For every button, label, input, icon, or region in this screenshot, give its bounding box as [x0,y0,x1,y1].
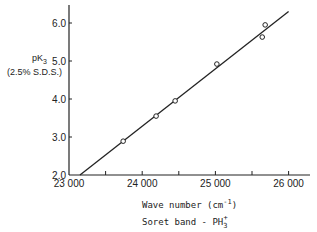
data-series [80,12,289,175]
fit-line [80,12,289,175]
data-point [121,139,126,144]
data-point [263,23,268,28]
y-tick-label: 4.0 [52,94,66,105]
x-tick-label: 24 000 [127,178,158,189]
x-ticks: 23 00024 00025 00026 000 [54,171,305,189]
y-tick-label: 5.0 [52,56,66,67]
x-axis-label: Wave number (cm-1) [142,198,237,210]
y-axis-sublabel: (2.5% S.D.S.) [7,67,62,77]
y-axis-label: pK3 [32,53,47,65]
data-point [215,62,220,67]
x-tick-label: 23 000 [54,178,85,189]
x-axis-sublabel: Soret band - PH3+ [142,214,228,230]
x-tick-label: 26 000 [273,178,304,189]
data-point [154,114,159,119]
data-point [173,99,178,104]
chart: 2.03.04.05.06.0 23 00024 00025 00026 000… [0,0,317,232]
x-tick-label: 25 000 [200,178,231,189]
y-tick-label: 6.0 [52,18,66,29]
y-tick-label: 3.0 [52,132,66,143]
data-point [260,35,265,40]
